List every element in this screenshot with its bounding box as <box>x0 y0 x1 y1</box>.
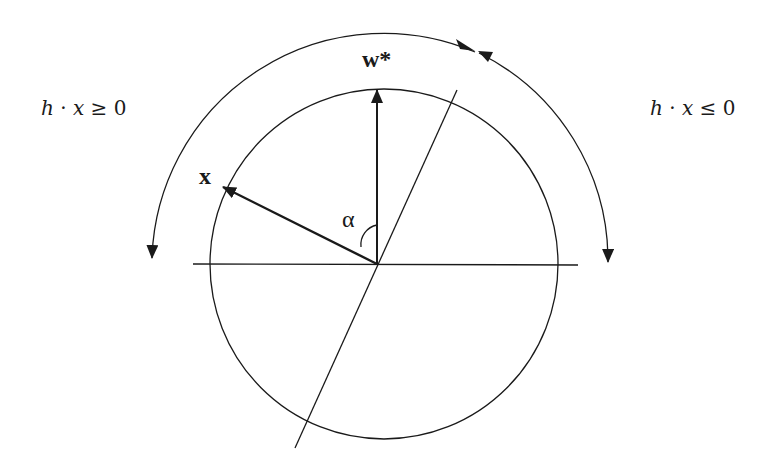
angle-alpha-label: α <box>342 206 355 233</box>
vector-w-label: w* <box>362 46 391 73</box>
left-zero: 0 <box>114 96 127 120</box>
arc-arrowhead-right-pointing <box>456 39 475 51</box>
left-x: x <box>73 96 84 120</box>
right-x: x <box>682 96 693 120</box>
vector-x-label: x <box>199 163 211 190</box>
outer-arc-left <box>152 33 475 258</box>
arc-arrowhead-left-pointing <box>478 51 493 62</box>
left-h: h <box>41 96 54 120</box>
outer-arc-right <box>479 53 608 262</box>
right-h: h <box>650 96 663 120</box>
right-zero: 0 <box>723 96 736 120</box>
horizontal-axis <box>193 264 578 265</box>
left-relation: ≥ <box>84 96 113 120</box>
left-region-label: h · x ≥ 0 <box>41 96 126 120</box>
left-dot: · <box>54 96 73 120</box>
right-dot: · <box>663 96 682 120</box>
right-region-label: h · x ≤ 0 <box>650 96 735 120</box>
diagram-canvas: h · x ≥ 0 h · x ≤ 0 w* x α <box>0 0 774 466</box>
right-relation: ≤ <box>693 96 722 120</box>
angle-arc <box>361 225 377 247</box>
